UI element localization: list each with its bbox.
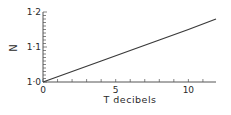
chart: 1·01·11·2 0510 N T decibels: [0, 0, 231, 115]
y-tick-label: 1·1: [27, 42, 41, 52]
y-axis-tick-labels: 1·01·11·2: [27, 7, 42, 87]
y-axis-label: N: [8, 44, 19, 51]
data-line: [43, 19, 216, 82]
x-axis-label: T decibels: [102, 94, 156, 105]
y-tick-label: 1·2: [27, 7, 41, 17]
y-axis-minor-ticks: [43, 12, 47, 82]
y-tick-label: 1·0: [27, 77, 42, 87]
x-tick-label: 0: [40, 85, 46, 95]
x-tick-label: 10: [183, 85, 195, 95]
